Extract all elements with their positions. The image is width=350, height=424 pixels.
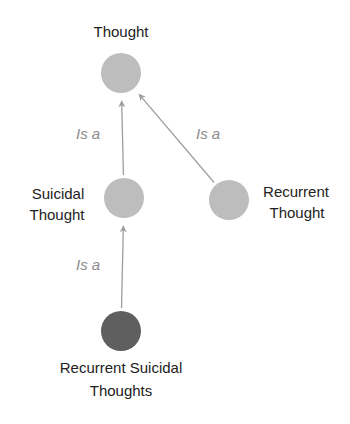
node-label-recurrent-thought-line2: Thought [269,204,325,221]
concept-diagram: Is a Is a Is a Thought Suicidal Thought … [0,0,350,424]
node-label-recurrent-thought-line1: Recurrent [263,183,330,200]
edge-label-recurrent-suicidal-to-suicidal: Is a [76,256,100,273]
node-label-suicidal-thought-line1: Suicidal [32,185,85,202]
edge-label-suicidal-to-thought: Is a [76,125,100,142]
node-label-recurrent-suicidal-thoughts-line2: Thoughts [90,382,153,399]
edge-label-recurrent-to-thought: Is a [196,125,220,142]
edges: Is a Is a Is a [76,94,220,308]
node-circle-recurrent-thought [209,180,249,220]
node-circle-recurrent-suicidal-thoughts [101,311,141,351]
node-recurrent-suicidal-thoughts: Recurrent Suicidal Thoughts [60,311,183,399]
node-label-recurrent-suicidal-thoughts-line1: Recurrent Suicidal [60,359,183,376]
node-suicidal-thought: Suicidal Thought [29,178,144,223]
node-circle-thought [101,53,141,93]
node-recurrent-thought: Recurrent Thought [209,180,330,221]
node-label-thought: Thought [93,23,149,40]
node-thought: Thought [93,23,149,93]
node-label-suicidal-thought-line2: Thought [29,206,85,223]
node-circle-suicidal-thought [104,178,144,218]
edge-suicidal-to-thought [122,101,124,175]
edge-recurrent-suicidal-to-suicidal [122,226,124,308]
